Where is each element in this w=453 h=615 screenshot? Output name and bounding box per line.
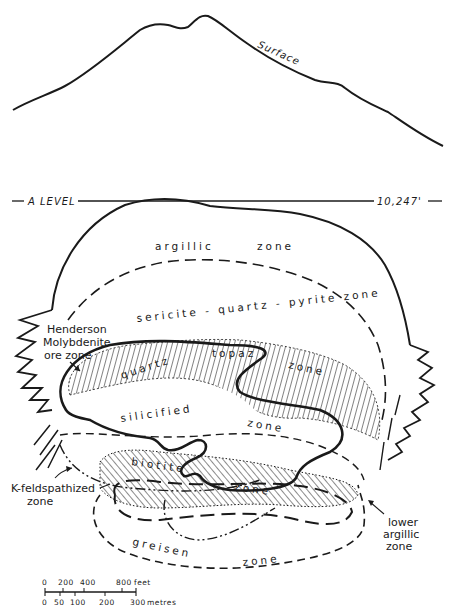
scale-feet-0: 0 [42,578,47,587]
scale-m-100: 100 [70,598,86,607]
scale-m-200: 200 [99,598,115,607]
scale-feet-400: 400 [80,578,96,587]
kfeld-callout-line1: K-feldspathized [11,482,95,495]
topaz-label: topaz [212,347,256,359]
greisen-label: greisen [132,535,193,559]
scale-m-50: 50 [54,598,65,607]
a-level-line: A LEVEL 10,247' [12,196,442,207]
scale-feet-800: 800 [116,578,132,587]
lower-argillic-line3: zone [386,540,412,553]
surface-profile: Surface [13,16,443,146]
argillic-zone-label: zone [257,240,294,252]
elevation-label: 10,247' [377,196,422,207]
a-level-label: A LEVEL [27,196,76,207]
ore-callout-line3: ore zone [44,349,92,362]
scale-m-300: 300 [130,598,146,607]
argillic-label: argillic [155,240,214,252]
cross-section-diagram: Surface A LEVEL 10,247' argil [0,0,453,615]
ore-callout-line2: Molybdenite [43,336,111,349]
scale-m-0: 0 [42,598,47,607]
scale-metre-unit: metres [147,598,176,607]
k-feldspathized-callout: K-feldspathized zone [11,466,110,508]
lower-argillic-callout: lower argillic zone [368,500,419,553]
sericite-label: sericite - quartz - pyrite zone [136,286,381,324]
greisen-zone-label: zone [242,552,280,568]
scale-feet-unit: feet [134,578,151,587]
scale-feet-200: 200 [58,578,74,587]
ore-callout-line1: Henderson [47,323,107,336]
scale-bar: 0 200 400 800 feet 0 50 100 200 300 metr… [42,578,176,607]
kfeld-callout-line2: zone [27,495,53,508]
